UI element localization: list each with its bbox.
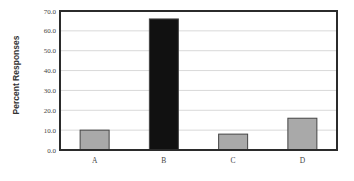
y-axis-ticks: 0.010.020.030.040.050.060.070.0: [44, 8, 57, 155]
y-tick-label: 30.0: [44, 87, 57, 95]
x-tick-label: B: [161, 156, 166, 165]
bar-c: [219, 134, 248, 150]
x-tick-label: D: [300, 156, 306, 165]
y-tick-label: 10.0: [44, 127, 57, 135]
x-tick-label: A: [92, 156, 98, 165]
bar-a: [80, 130, 109, 150]
bar-d: [288, 118, 317, 150]
gridlines: [60, 31, 337, 130]
x-axis-labels: ABCD: [92, 156, 306, 165]
y-tick-label: 20.0: [44, 107, 57, 115]
x-tick-label: C: [231, 156, 236, 165]
y-tick-label: 0.0: [47, 147, 56, 155]
y-tick-label: 60.0: [44, 27, 57, 35]
y-axis-title: Percent Responses: [11, 35, 21, 114]
bar-b: [149, 19, 178, 150]
y-tick-label: 50.0: [44, 47, 57, 55]
y-tick-label: 40.0: [44, 67, 57, 75]
y-tick-label: 70.0: [44, 8, 57, 16]
bar-chart: 0.010.020.030.040.050.060.070.0 ABCD Per…: [0, 0, 354, 181]
